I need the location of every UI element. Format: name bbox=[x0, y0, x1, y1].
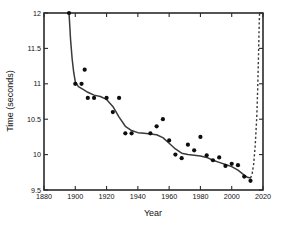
data-point bbox=[123, 131, 127, 135]
data-point bbox=[180, 156, 184, 160]
x-tick-label: 1920 bbox=[99, 192, 115, 201]
data-point bbox=[192, 148, 196, 152]
data-point bbox=[167, 138, 171, 142]
data-point bbox=[223, 164, 227, 168]
x-axis-title: Year bbox=[144, 208, 162, 218]
y-tick-label: 10.5 bbox=[27, 115, 41, 124]
projection-dashed-line bbox=[250, 13, 259, 178]
y-tick-label: 11.5 bbox=[28, 44, 41, 53]
data-point bbox=[117, 96, 121, 100]
data-point bbox=[205, 153, 209, 157]
trend-fit-line bbox=[69, 13, 250, 178]
data-point bbox=[104, 96, 108, 100]
data-point bbox=[73, 82, 77, 86]
x-tick-label: 1940 bbox=[130, 192, 146, 201]
y-tick-labels: 9.51010.51111.512 bbox=[27, 9, 41, 195]
x-tick-labels: 18801900192019401960198020002020 bbox=[36, 192, 271, 201]
data-point bbox=[242, 174, 246, 178]
data-points bbox=[67, 11, 253, 183]
x-tick-label: 1900 bbox=[67, 192, 83, 201]
data-point bbox=[186, 143, 190, 147]
x-tick-label: 2020 bbox=[255, 192, 271, 201]
x-tick-label: 1880 bbox=[36, 192, 52, 201]
chart-figure: 9.51010.51111.512 1880190019201940196019… bbox=[0, 0, 289, 226]
data-point bbox=[92, 96, 96, 100]
data-point bbox=[217, 155, 221, 159]
y-tick-label: 11 bbox=[34, 79, 41, 88]
data-point bbox=[86, 96, 90, 100]
x-tick-label: 2000 bbox=[224, 192, 240, 201]
data-point bbox=[173, 153, 177, 157]
data-point bbox=[161, 117, 165, 121]
data-point bbox=[79, 82, 83, 86]
data-point bbox=[155, 124, 159, 128]
data-point bbox=[211, 158, 215, 162]
data-point bbox=[130, 131, 134, 135]
data-point bbox=[230, 162, 234, 166]
y-tick-label: 10 bbox=[33, 150, 41, 159]
y-tick-label: 12 bbox=[33, 9, 41, 18]
data-point bbox=[198, 135, 202, 139]
data-point bbox=[248, 179, 252, 183]
y-axis-title: Time (seconds) bbox=[5, 70, 15, 132]
sprint-times-scatter-chart: 9.51010.51111.512 1880190019201940196019… bbox=[0, 0, 289, 226]
x-tick-label: 1960 bbox=[161, 192, 177, 201]
data-point bbox=[111, 110, 115, 114]
data-point bbox=[83, 68, 87, 72]
x-tick-label: 1980 bbox=[192, 192, 208, 201]
data-point bbox=[67, 11, 71, 15]
data-point bbox=[148, 131, 152, 135]
data-point bbox=[236, 163, 240, 167]
